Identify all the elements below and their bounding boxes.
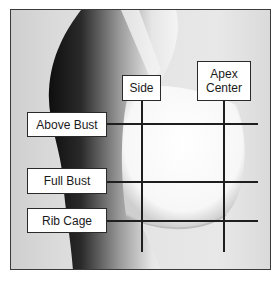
side-line: [141, 100, 143, 252]
rib-cage-label: Rib Cage: [27, 208, 107, 233]
full-bust-label: Full Bust: [27, 168, 107, 194]
above-bust-label: Above Bust: [27, 112, 107, 137]
apex-center-line: [223, 100, 225, 252]
diagram-frame: Side Apex Center Above Bust Full Bust Ri…: [10, 9, 271, 270]
apex-center-label: Apex Center: [197, 61, 251, 101]
side-label: Side: [122, 75, 161, 101]
above-bust-line: [107, 123, 258, 125]
rib-cage-line: [107, 220, 258, 222]
full-bust-line: [107, 181, 258, 183]
